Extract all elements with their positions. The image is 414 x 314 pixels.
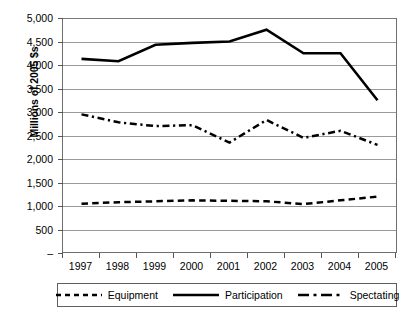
x-axis-tick-mark [210,253,211,258]
legend-item[interactable]: Participation [172,290,283,301]
x-axis-tick-label: 2004 [320,260,360,272]
x-axis-tick-mark [358,253,359,258]
solid-line-swatch [172,290,220,300]
y-axis-tick-mark [58,89,63,90]
y-axis-tick-label: 4,000 [27,60,53,70]
x-axis-tick-mark [136,253,137,258]
legend-label: Participation [225,290,283,301]
y-axis-tick-label: 2,000 [27,154,53,164]
x-axis-tick-label: 1998 [98,260,138,272]
y-axis-tick-label: 1,000 [27,201,53,211]
y-axis-tick-mark [58,136,63,137]
x-axis-tick-label: 1999 [135,260,175,272]
legend-item[interactable]: Equipment [55,290,158,301]
x-axis-tick-label: 2001 [209,260,249,272]
y-axis-tick-label: 3,500 [27,84,53,94]
x-axis-tick-mark [395,253,396,258]
x-axis-tick-label: 2002 [246,260,286,272]
y-axis-tick-label: 1,500 [27,178,53,188]
line-chart: Millions of 2005 $s –5001,0001,5002,0002… [0,0,414,314]
series-line-spectating [82,114,378,145]
y-axis-tick-mark [58,183,63,184]
x-axis-tick-labels: 199719981999200020012002200320042005 [0,260,414,276]
x-axis-tick-label: 2000 [172,260,212,272]
x-axis-tick-mark [247,253,248,258]
legend-item[interactable]: Spectating [297,290,400,301]
y-axis-tick-mark [58,206,63,207]
series-line-participation [82,30,378,101]
x-axis-tick-mark [173,253,174,258]
plot-area [62,18,397,253]
y-axis-tick-mark [58,18,63,19]
y-axis-tick-mark [58,159,63,160]
y-axis-tick-mark [58,253,63,254]
legend-label: Spectating [350,290,400,301]
y-axis-tick-mark [58,112,63,113]
x-axis-tick-mark [284,253,285,258]
x-axis-tick-label: 2005 [357,260,397,272]
y-axis-tick-mark [58,65,63,66]
x-axis-tick-mark [99,253,100,258]
legend-label: Equipment [108,290,158,301]
series-line-equipment [82,197,378,205]
y-axis-tick-label: 4,500 [27,37,53,47]
x-axis-tick-mark [321,253,322,258]
x-axis-tick-marks [62,253,395,259]
dash-dot-line-swatch [297,290,345,300]
y-axis-tick-label: 2,500 [27,131,53,141]
x-axis-tick-label: 1997 [61,260,101,272]
y-axis-tick-label: 500 [35,225,53,235]
x-axis-tick-label: 2003 [283,260,323,272]
plot-inner [63,18,396,253]
chart-legend: EquipmentParticipationSpectating [57,283,397,307]
y-axis-tick-label: 3,000 [27,107,53,117]
series-layer [63,18,396,253]
y-axis-tick-mark [58,230,63,231]
y-axis-tick-label: – [47,248,53,258]
dashed-line-swatch [55,290,103,300]
y-axis-tick-mark [58,42,63,43]
y-axis-tick-label: 5,000 [27,13,53,23]
